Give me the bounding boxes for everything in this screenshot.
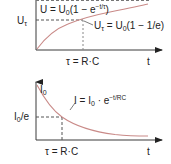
u-tau-pointer bbox=[84, 21, 93, 25]
top-chart-charging-voltage: U = U0(1 − e−t/τ) Uτ Uτ = U0(1 − 1/e) τ … bbox=[17, 0, 164, 67]
t-axis-label-bottom: t bbox=[147, 146, 150, 157]
rc-circuit-diagram: U = U0(1 − e−t/τ) Uτ Uτ = U0(1 − 1/e) τ … bbox=[0, 0, 171, 164]
discharge-formula: I = I0 · e−t/RC bbox=[74, 94, 126, 107]
t-axis-label-top: t bbox=[147, 56, 150, 67]
i0-over-e-label: I0/e bbox=[14, 111, 29, 123]
u-tau-formula: Uτ = U0(1 − 1/e) bbox=[94, 20, 164, 32]
tau-label-bottom: τ = R·C bbox=[45, 146, 78, 157]
bottom-chart-discharge-current: I0 I = I0 · e−t/RC I0/e τ = R·C t bbox=[14, 82, 162, 157]
tau-label-top: τ = R·C bbox=[66, 56, 99, 67]
u-tau-axis-label: Uτ bbox=[17, 15, 27, 27]
i0-axis-label: I0 bbox=[40, 84, 47, 96]
discharge-curve bbox=[37, 85, 148, 136]
